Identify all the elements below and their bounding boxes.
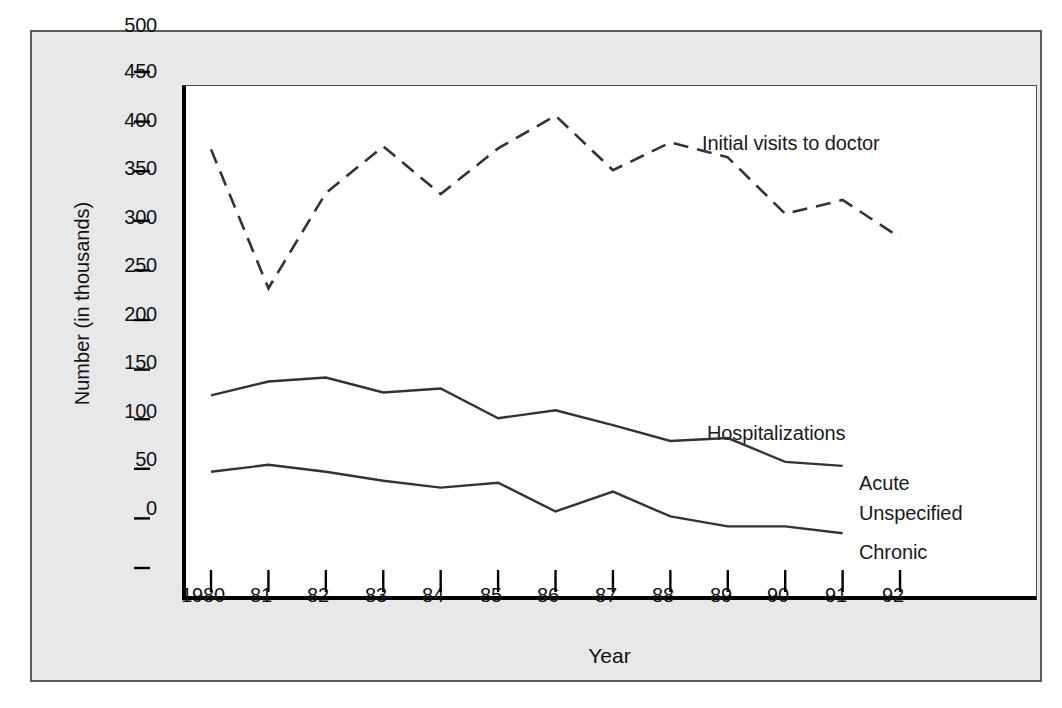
ytick-label-500: 500 (72, 14, 157, 37)
annotation-chronic: Chronic (859, 541, 927, 564)
annotation-unspecified: Unspecified (859, 502, 962, 525)
figure-root: 500 450 400 350 300 250 200 150 100 50 0… (0, 0, 1062, 708)
xtick-label-90: 90 (748, 584, 808, 607)
xtick-label-81: 81 (231, 584, 291, 607)
annotation-initial-visits: Initial visits to doctor (702, 132, 880, 155)
xtick-label-86: 86 (518, 584, 578, 607)
ytick-label-450: 450 (72, 60, 157, 83)
xtick-label-88: 88 (633, 584, 693, 607)
xtick-label-82: 82 (288, 584, 348, 607)
page-background: 500 450 400 350 300 250 200 150 100 50 0… (0, 0, 1062, 708)
y-axis-title: Number (in thousands) (71, 104, 94, 504)
xtick-label-1980: 1980 (173, 584, 233, 607)
xtick-label-91: 91 (806, 584, 866, 607)
x-axis-title: Year (182, 644, 1037, 668)
xtick-label-89: 89 (691, 584, 751, 607)
annotation-acute: Acute (859, 472, 910, 495)
xtick-label-92: 92 (863, 584, 923, 607)
xtick-label-84: 84 (403, 584, 463, 607)
figure-border-box: 500 450 400 350 300 250 200 150 100 50 0… (30, 30, 1042, 682)
xtick-label-87: 87 (576, 584, 636, 607)
annotation-hospitalizations: Hospitalizations (707, 422, 845, 445)
xtick-label-85: 85 (461, 584, 521, 607)
xtick-label-83: 83 (346, 584, 406, 607)
